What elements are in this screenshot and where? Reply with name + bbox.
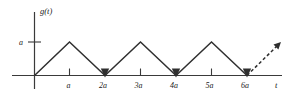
x-tick-label-3a: 3a: [134, 81, 143, 90]
x-tick-label-4a: 4a: [170, 81, 178, 90]
x-tick-label-2a: 2a: [99, 81, 107, 90]
triangular-wave-plot: g(t) a a 2a 3a 4a 5a 6a t: [0, 0, 293, 101]
x-tick-label-5a: 5a: [206, 81, 214, 90]
figure-container: g(t) a a 2a 3a 4a 5a 6a t: [0, 0, 293, 101]
x-tick-label-6a: 6a: [241, 81, 249, 90]
x-tick-label-a: a: [67, 81, 71, 90]
continuation-arrow-icon: [274, 42, 282, 49]
x-axis-label: t: [275, 80, 278, 90]
y-tick-label-a: a: [19, 38, 23, 47]
y-axis-label: g(t): [40, 6, 52, 16]
waveform-continuation-dashed: [247, 46, 277, 76]
